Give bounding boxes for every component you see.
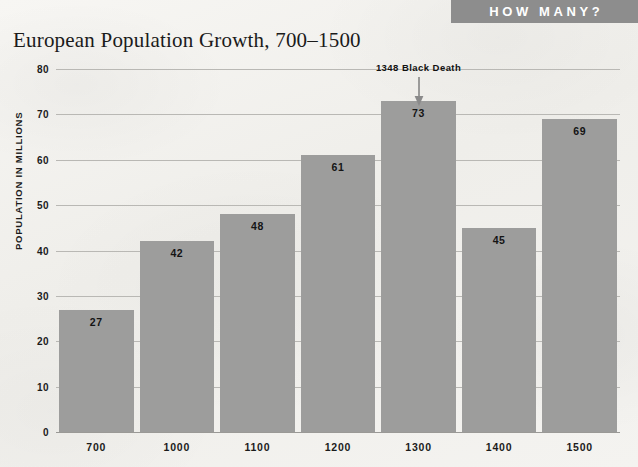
bar: 69 (542, 119, 617, 432)
x-tick-label: 700 (56, 441, 137, 453)
x-tick-label: 1400 (459, 441, 540, 453)
y-axis-title: POPULATION IN MILLIONS (13, 112, 24, 250)
y-tick-label: 40 (37, 245, 49, 256)
bar: 73 (381, 101, 456, 432)
bar-value-label: 48 (220, 220, 295, 232)
x-tick-label: 1300 (378, 441, 459, 453)
bar: 45 (462, 228, 537, 432)
y-tick-label: 0 (43, 427, 49, 438)
black-death-annotation-label: 1348 Black Death (314, 62, 524, 73)
bar-value-label: 27 (59, 316, 134, 328)
bar: 42 (140, 241, 215, 432)
chart-page: HOW MANY? European Population Growth, 70… (0, 0, 638, 467)
bar: 61 (301, 155, 376, 432)
y-tick-label: 30 (37, 290, 49, 301)
x-axis-baseline (56, 432, 620, 433)
y-tick-label: 20 (37, 336, 49, 347)
bar-value-label: 69 (542, 125, 617, 137)
y-tick-label: 10 (37, 381, 49, 392)
y-tick-label: 80 (37, 64, 49, 75)
x-tick-label: 1000 (137, 441, 218, 453)
y-tick-label: 60 (37, 154, 49, 165)
page-title: European Population Growth, 700–1500 (13, 28, 361, 53)
y-tick-label: 70 (37, 109, 49, 120)
y-tick-label: 50 (37, 200, 49, 211)
x-tick-label: 1100 (217, 441, 298, 453)
bar-value-label: 45 (462, 234, 537, 246)
bar: 27 (59, 310, 134, 433)
how-many-banner: HOW MANY? (451, 0, 638, 23)
x-tick-label: 1500 (539, 441, 620, 453)
x-tick-label: 1200 (298, 441, 379, 453)
down-arrow-icon (412, 77, 426, 107)
bar: 48 (220, 214, 295, 432)
bar-value-label: 73 (381, 107, 456, 119)
gridline (56, 114, 620, 115)
bar-value-label: 61 (301, 161, 376, 173)
plot-area: 01020304050607080 27424861734569 7001000… (56, 69, 620, 432)
bar-value-label: 42 (140, 247, 215, 259)
